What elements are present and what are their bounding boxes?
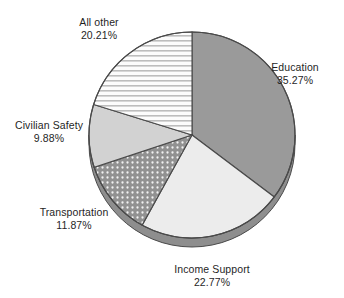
pie-label-civilian-safety-value: 9.88%	[3, 132, 95, 145]
pie-label-income-support-value: 22.77%	[158, 276, 266, 289]
pie-label-income-support: Income Support 22.77%	[158, 263, 266, 289]
pie-label-income-support-name: Income Support	[158, 263, 266, 276]
pie-label-all-other-value: 20.21%	[57, 29, 141, 42]
pie-chart: All other 20.21% Education 35.27% Civili…	[0, 0, 344, 298]
pie-label-transportation: Transportation 11.87%	[22, 206, 126, 232]
pie-label-civilian-safety-name: Civilian Safety	[3, 119, 95, 132]
pie-label-all-other: All other 20.21%	[57, 16, 141, 42]
pie-chart-graphic	[0, 0, 344, 298]
pie-label-transportation-value: 11.87%	[22, 219, 126, 232]
pie-label-all-other-name: All other	[57, 16, 141, 29]
pie-label-civilian-safety: Civilian Safety 9.88%	[3, 119, 95, 145]
pie-label-education-value: 35.27%	[253, 74, 337, 87]
pie-label-education-name: Education	[253, 61, 337, 74]
pie-label-education: Education 35.27%	[253, 61, 337, 87]
pie-label-transportation-name: Transportation	[22, 206, 126, 219]
